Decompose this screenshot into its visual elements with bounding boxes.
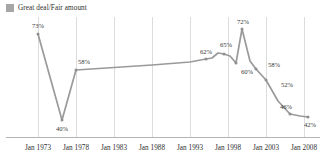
legend-label: Great deal/Fair amount <box>18 4 87 12</box>
chart-legend: Great deal/Fair amount <box>6 2 87 14</box>
x-tick-jan-1983: Jan 1983 <box>101 143 127 153</box>
data-label-52: 52% <box>281 81 294 88</box>
data-label-46: 46% <box>280 103 293 110</box>
x-tick-jan-1978: Jan 1978 <box>63 143 89 153</box>
x-tick-jan-2008: Jan 2008 <box>291 143 317 153</box>
data-label-62: 62% <box>200 48 213 55</box>
x-tick-jan-2003: Jan 2003 <box>253 143 279 153</box>
data-label-58-a: 58% <box>78 58 91 65</box>
series-point-markers <box>37 28 310 122</box>
data-label-42: 42% <box>304 121 317 128</box>
line-chart: Great deal/Fair amount <box>0 0 326 162</box>
gridlines <box>39 17 305 137</box>
data-label-72: 72% <box>237 18 250 25</box>
data-label-65: 65% <box>220 41 233 48</box>
x-axis-labels: Jan 1973 Jan 1978 Jan 1983 Jan 1988 Jan … <box>0 143 326 159</box>
x-tick-jan-1998: Jan 1998 <box>215 143 241 153</box>
data-label-60: 60% <box>241 68 254 75</box>
data-label-73: 73% <box>32 22 45 29</box>
data-label-40: 40% <box>56 125 69 132</box>
x-tick-jan-1988: Jan 1988 <box>139 143 165 153</box>
x-tick-jan-1993: Jan 1993 <box>177 143 203 153</box>
x-tick-jan-1973: Jan 1973 <box>25 143 51 153</box>
series-line-great-deal-fair-amount <box>38 29 308 120</box>
legend-swatch-icon <box>6 4 14 12</box>
plot-area: 73% 40% 58% 62% 65% 72% 60% 58% 52% 46% … <box>0 17 326 140</box>
data-label-58-b: 58% <box>268 61 281 68</box>
